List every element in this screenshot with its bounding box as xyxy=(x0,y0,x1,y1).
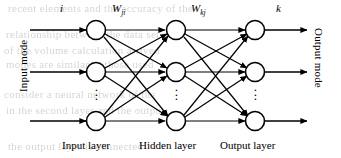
ellipsis-input-layer: ··· xyxy=(92,88,101,102)
input-index-label: i xyxy=(60,2,63,14)
weight-label-kj: Wkj xyxy=(191,2,206,17)
node-output-3 xyxy=(246,112,265,131)
caption-hidden-layer: Hidden layer xyxy=(139,139,196,151)
weight-subscript: ji xyxy=(121,8,125,17)
weight-symbol: W xyxy=(112,2,121,14)
node-hidden-1 xyxy=(167,21,186,40)
input-layer-nodes xyxy=(87,21,106,131)
node-output-1 xyxy=(246,21,265,40)
node-input-3 xyxy=(87,112,106,131)
weight-subscript: kj xyxy=(200,8,205,17)
caption-input-layer: Input layer xyxy=(62,139,110,151)
hidden-layer-nodes xyxy=(167,21,186,131)
weight-symbol: W xyxy=(191,2,200,14)
node-output-2 xyxy=(246,63,265,82)
input-to-hidden-edges xyxy=(104,30,168,121)
output-feed-arrows xyxy=(265,30,307,121)
hidden-to-output-edges xyxy=(184,30,248,121)
node-input-2 xyxy=(87,63,106,82)
ellipsis-hidden-layer: ··· xyxy=(172,88,181,102)
network-graph xyxy=(0,0,341,158)
weight-label-ji: Wji xyxy=(112,2,125,17)
input-mode-label: Input mode xyxy=(17,40,29,92)
node-hidden-3 xyxy=(167,112,186,131)
output-layer-nodes xyxy=(246,21,265,131)
input-feed-arrows xyxy=(30,30,86,121)
node-hidden-2 xyxy=(167,63,186,82)
figure-canvas: recent elements and the accuracy of the … xyxy=(0,0,341,158)
node-input-1 xyxy=(87,21,106,40)
ellipsis-output-layer: ··· xyxy=(251,88,260,102)
output-index-label: k xyxy=(276,2,281,14)
caption-output-layer: Output layer xyxy=(220,139,275,151)
output-mode-label: Output mode xyxy=(313,28,325,88)
